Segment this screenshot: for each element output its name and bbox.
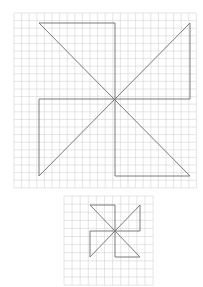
pinwheel-diagram	[0, 0, 203, 287]
large-grid	[14, 13, 196, 188]
large-pinwheel-figure	[39, 23, 190, 176]
small-pinwheel-figure	[90, 205, 140, 257]
